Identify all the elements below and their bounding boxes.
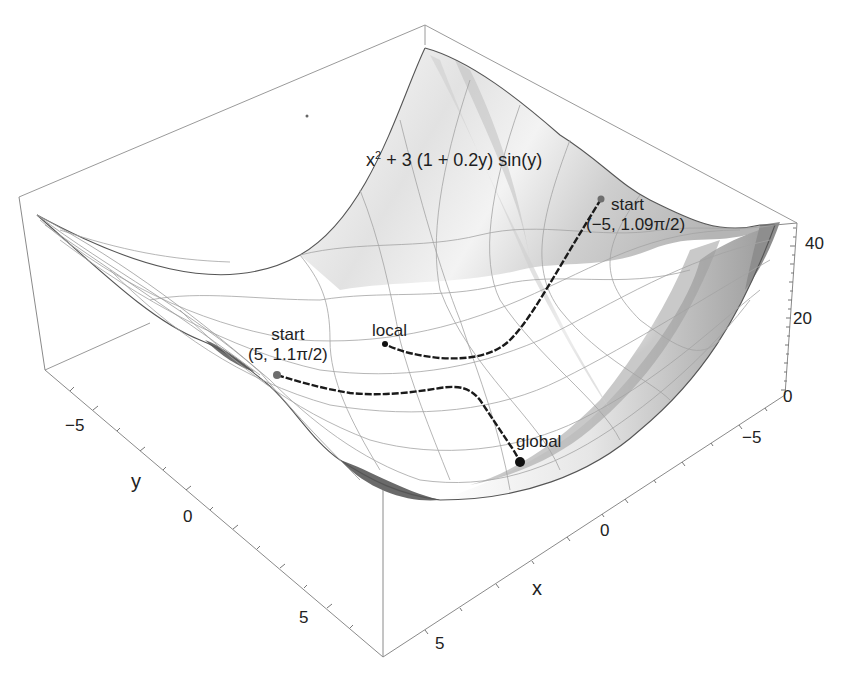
local-min-point (382, 341, 388, 347)
x-axis-label: x (532, 578, 542, 598)
annotation-start-left: start (5, 1.1π/2) (248, 326, 328, 363)
z-tick-20: 20 (793, 310, 812, 327)
global-min-point (515, 457, 525, 467)
x-tick-0: 0 (600, 522, 609, 539)
y-axis-label: y (131, 471, 141, 491)
formula-rest: + 3 (1 + 0.2y) sin(y) (381, 150, 542, 170)
z-tick-40: 40 (805, 235, 824, 252)
start-point-left (273, 371, 281, 379)
chart-title: x2 + 3 (1 + 0.2y) sin(y) (366, 150, 542, 169)
annotation-start-right-coords: (−5, 1.09π/2) (586, 216, 685, 233)
annotation-start-left-title: start (248, 326, 328, 343)
x-tick-minus5: −5 (742, 429, 761, 446)
x-tick-5: 5 (435, 635, 444, 652)
annotation-start-left-coords: (5, 1.1π/2) (248, 346, 328, 363)
y-tick-0: 0 (183, 508, 192, 525)
surface (37, 48, 780, 500)
surface-plot (0, 0, 845, 684)
annotation-start-right-title: start (611, 196, 685, 213)
annotation-global: global (516, 433, 561, 450)
annotation-local: local (372, 322, 407, 339)
z-tick-0: 0 (783, 388, 792, 405)
y-tick-minus5: −5 (65, 417, 84, 434)
annotation-start-right: start (−5, 1.09π/2) (586, 196, 685, 233)
y-tick-5: 5 (299, 609, 308, 626)
formula-x: x (366, 150, 375, 170)
